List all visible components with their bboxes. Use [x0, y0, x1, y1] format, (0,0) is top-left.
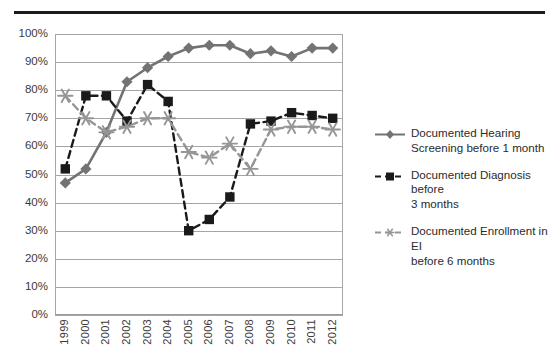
gridline — [55, 315, 343, 316]
diamond-marker-icon — [375, 127, 405, 142]
x-axis-tick-label: 2003 — [142, 319, 153, 345]
data-series-layer — [55, 34, 343, 315]
diamond-marker-icon — [204, 40, 215, 51]
diamond-marker-icon — [307, 42, 318, 53]
y-axis-tick-label: 90% — [25, 56, 48, 68]
legend-label-line2: 3 months — [411, 197, 459, 210]
diamond-marker-icon — [245, 48, 256, 59]
diamond-marker-icon — [265, 45, 276, 56]
y-axis: 0%10%20%30%40%50%60%70%80%90%100% — [0, 34, 52, 315]
square-marker-icon — [328, 114, 337, 123]
asterisk-marker-icon — [305, 120, 319, 132]
legend-item-label: Documented Diagnosis before 3 months — [411, 168, 555, 212]
legend-label-line1: Documented Hearing — [411, 126, 521, 139]
y-axis-tick-label: 0% — [31, 309, 48, 321]
square-marker-icon — [307, 111, 316, 120]
y-axis-tick-label: 40% — [25, 197, 48, 209]
square-marker-icon — [102, 91, 111, 100]
asterisk-marker-icon — [326, 123, 340, 135]
square-marker-icon — [184, 226, 193, 235]
line-chart: 0%10%20%30%40%50%60%70%80%90%100% 199920… — [0, 20, 558, 343]
legend-item-label: Documented Enrollment in EI before 6 mon… — [411, 224, 555, 268]
x-axis-tick-label: 1999 — [59, 319, 70, 345]
series-square — [61, 80, 338, 236]
square-marker-icon — [225, 192, 234, 201]
series-asterisk — [58, 90, 340, 176]
y-axis-tick-label: 60% — [25, 141, 48, 153]
legend-label-line1: Documented Enrollment in EI — [411, 224, 548, 252]
x-axis-tick-label: 2010 — [286, 319, 297, 345]
page-divider-rule — [14, 11, 545, 14]
y-axis-tick-label: 70% — [25, 113, 48, 125]
legend-item-hearing-screening: Documented Hearing Screening before 1 mo… — [375, 126, 555, 156]
asterisk-marker-icon — [140, 112, 154, 124]
y-axis-tick-label: 50% — [25, 169, 48, 181]
square-marker-icon — [163, 97, 172, 106]
y-axis-tick-label: 30% — [25, 225, 48, 237]
x-axis: 1999200020012002200320042005200620072008… — [55, 317, 345, 349]
y-axis-tick-label: 10% — [25, 281, 48, 293]
asterisk-marker-icon — [375, 225, 405, 240]
square-marker-icon — [246, 119, 255, 128]
asterisk-marker-icon — [161, 112, 175, 124]
y-axis-tick-label: 100% — [19, 28, 48, 40]
square-marker-icon — [61, 164, 70, 173]
diamond-marker-icon — [224, 40, 235, 51]
square-marker-icon — [81, 91, 90, 100]
square-marker-icon — [287, 108, 296, 117]
y-axis-tick-label: 20% — [25, 253, 48, 265]
x-axis-tick-label: 2002 — [121, 319, 132, 345]
legend-label-line2: before 6 months — [411, 254, 495, 267]
plot-area — [55, 34, 343, 315]
legend-label-line2: Screening before 1 month — [411, 141, 544, 154]
legend-item-enrollment: Documented Enrollment in EI before 6 mon… — [375, 224, 555, 268]
x-axis-tick-label: 2006 — [203, 319, 214, 345]
legend-label-line1: Documented Diagnosis before — [411, 168, 531, 196]
diamond-marker-icon — [163, 51, 174, 62]
x-axis-tick-label: 2000 — [80, 319, 91, 345]
asterisk-marker-icon — [182, 146, 196, 158]
chart-legend: Documented Hearing Screening before 1 mo… — [375, 126, 555, 281]
x-axis-tick-label: 2012 — [327, 319, 338, 345]
legend-item-label: Documented Hearing Screening before 1 mo… — [411, 126, 544, 156]
y-axis-tick-label: 80% — [25, 84, 48, 96]
diamond-marker-icon — [183, 42, 194, 53]
x-axis-tick-label: 2004 — [162, 319, 173, 345]
square-marker-icon — [205, 215, 214, 224]
square-marker-icon — [143, 80, 152, 89]
x-axis-tick-label: 2007 — [224, 319, 235, 345]
square-marker-icon — [375, 169, 405, 184]
x-axis-tick-label: 2005 — [183, 319, 194, 345]
legend-item-diagnosis: Documented Diagnosis before 3 months — [375, 168, 555, 212]
diamond-marker-icon — [286, 51, 297, 62]
x-axis-tick-label: 2009 — [265, 319, 276, 345]
diamond-marker-icon — [327, 42, 338, 53]
series-line — [65, 85, 332, 231]
x-axis-tick-label: 2001 — [100, 319, 111, 345]
asterisk-marker-icon — [284, 120, 298, 132]
x-axis-tick-label: 2011 — [306, 319, 317, 344]
x-axis-tick-label: 2008 — [244, 319, 255, 345]
